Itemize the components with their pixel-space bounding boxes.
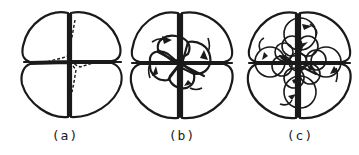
rotation-arrow-icon bbox=[262, 52, 268, 60]
panel-b-label: (b) bbox=[152, 128, 212, 143]
panel-c-label: (c) bbox=[270, 128, 330, 143]
rotation-arrow-icon bbox=[288, 94, 296, 100]
spiral-cleavage-drawing bbox=[240, 0, 359, 125]
panel-c-diagram bbox=[240, 0, 359, 125]
panel-a-label: (a) bbox=[35, 128, 95, 143]
panel-b-diagram bbox=[122, 0, 242, 125]
micromere-quartet-drawing bbox=[122, 0, 242, 125]
rotation-arrow-icon bbox=[200, 50, 208, 60]
rotation-arrow-icon bbox=[152, 66, 158, 76]
four-cell-stage-drawing bbox=[10, 0, 130, 125]
panel-a-diagram bbox=[10, 0, 130, 125]
